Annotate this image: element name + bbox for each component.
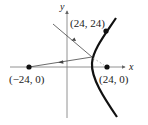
reflected-ray bbox=[29, 57, 92, 67]
x-axis-label: x bbox=[128, 61, 134, 72]
arrowhead-icon bbox=[72, 38, 77, 42]
label-focus-right: (24, 0) bbox=[99, 73, 129, 86]
point-24-24 bbox=[103, 28, 108, 33]
hyperbola-diagram: x y (24, 24) (−24, 0) (24, 0) bbox=[0, 0, 148, 125]
label-point-24-24: (24, 24) bbox=[70, 17, 105, 30]
label-focus-left: (−24, 0) bbox=[9, 73, 45, 86]
focus-left bbox=[26, 64, 31, 69]
dashed-extension bbox=[93, 58, 104, 65]
focus-right bbox=[104, 64, 109, 69]
y-axis-label: y bbox=[59, 1, 65, 12]
